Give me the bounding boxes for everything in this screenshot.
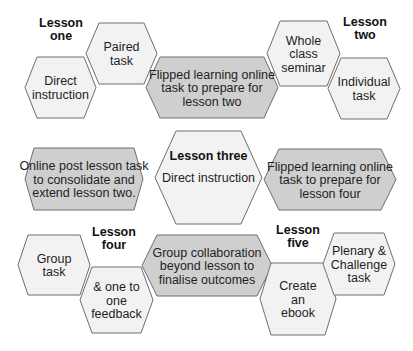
hexagon-text-line: Direct instruction: [162, 171, 255, 185]
hexagon-text-line: an: [291, 293, 305, 307]
hexagon-text-line: beyond lesson to: [160, 259, 255, 273]
lesson-label-line: five: [287, 236, 309, 250]
hexagon-text-line: Flipped learning online: [149, 68, 275, 82]
hexagon-text-line: finalise outcomes: [159, 273, 256, 287]
hexagon-text-line: instruction: [32, 88, 89, 102]
lesson-label-line: four: [102, 238, 126, 252]
lesson-label-line: one: [50, 29, 72, 43]
hexagon-flipped-lesson-four: Flipped learning onlinetask to prepare f…: [264, 149, 396, 210]
hexagon-text-line: feedback: [91, 307, 142, 321]
hexagon-text-line: to consolidate and: [33, 173, 135, 187]
hexagon-text-line: one: [106, 294, 127, 308]
hexagon-text-line: Challenge: [331, 258, 387, 272]
hexagon-text-line: Group collaboration: [152, 246, 261, 260]
hexagon-lesson-three: Lesson threeDirect instruction: [155, 131, 262, 224]
hexagon-text-line: task: [110, 54, 134, 68]
hexagon-text-line: Plenary &: [332, 244, 387, 258]
hexagon-text-line: lesson two: [182, 95, 241, 109]
hexagon-text-line: task to prepare for: [161, 81, 262, 95]
hexagon-text-line: lesson four: [299, 187, 360, 201]
hexagon-direct-instruction-l1: Directinstruction: [25, 57, 96, 118]
hexagon-online-post-lesson: Online post lesson taskto consolidate an…: [19, 148, 149, 210]
hexagon-text-line: Direct: [44, 74, 77, 88]
lesson-label-line: Lesson: [92, 225, 136, 239]
lesson-label-line: two: [354, 28, 376, 42]
hexagon-plenary-challenge: Plenary &Challengetask: [323, 233, 395, 295]
hexagon-title: Lesson three: [170, 149, 248, 163]
hexagon-text-line: & one to: [93, 280, 140, 294]
lesson-label-line: Lesson: [343, 15, 387, 29]
hexagon-text-line: Online post lesson task: [19, 159, 149, 173]
hexagon-text-line: Paired: [103, 40, 139, 54]
hexagon-individual-task: Individualtask: [328, 58, 400, 119]
hexagon-text-line: Individual: [338, 75, 391, 89]
hexagon-text-line: Whole: [286, 34, 321, 48]
hexagon-flipped-lesson-two: Flipped learning onlinetask to prepare f…: [146, 57, 278, 118]
lesson-label-line: Lesson: [276, 223, 320, 237]
hexagon-text-line: task to prepare for: [279, 173, 380, 187]
lesson-sequence-diagram: PairedtaskDirectinstructionFlipped learn…: [0, 0, 413, 351]
hexagon-whole-class-seminar: Wholeclassseminar: [267, 21, 340, 86]
label-lesson-four: Lessonfour: [92, 225, 136, 252]
hexagon-text-line: Create: [279, 279, 317, 293]
hexagon-group-collaboration: Group collaborationbeyond lesson tofinal…: [142, 235, 272, 296]
hexagon-text-line: task: [348, 271, 372, 285]
hexagon-create-ebook: Createanebook: [260, 263, 336, 335]
hexagon-text-line: ebook: [281, 306, 316, 320]
hexagon-one-to-one-feedback: & one toonefeedback: [80, 267, 153, 333]
label-lesson-two: Lessontwo: [343, 15, 387, 42]
lesson-label-line: Lesson: [39, 16, 83, 30]
hexagon-text-line: extend lesson two.: [32, 186, 136, 200]
hexagon-text-line: task: [353, 89, 377, 103]
hexagon-group-task: Grouptask: [18, 235, 90, 295]
hexagon-text-line: task: [43, 265, 67, 279]
hexagon-text-line: class: [289, 47, 317, 61]
label-lesson-one: Lessonone: [39, 16, 83, 43]
hexagon-text-line: Group: [37, 252, 72, 266]
hexagon-paired-task: Pairedtask: [86, 23, 157, 84]
hexagon-text-line: Flipped learning online: [267, 160, 393, 174]
hexagon-diagram: PairedtaskDirectinstructionFlipped learn…: [0, 0, 413, 351]
label-lesson-five: Lessonfive: [276, 223, 320, 250]
hexagon-text-line: seminar: [281, 61, 325, 75]
